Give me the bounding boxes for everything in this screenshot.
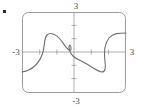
x-axis-min-label: -3 [12, 47, 20, 57]
graph-canvas: 3 -3 -3 3 [0, 0, 141, 107]
x-axis-max-label: 3 [130, 47, 135, 57]
bullet-marker-icon [3, 10, 6, 13]
y-axis-max-label: 3 [74, 1, 79, 11]
y-axis-min-label: -3 [72, 96, 80, 106]
graph-figure: 3 -3 -3 3 [0, 0, 141, 107]
